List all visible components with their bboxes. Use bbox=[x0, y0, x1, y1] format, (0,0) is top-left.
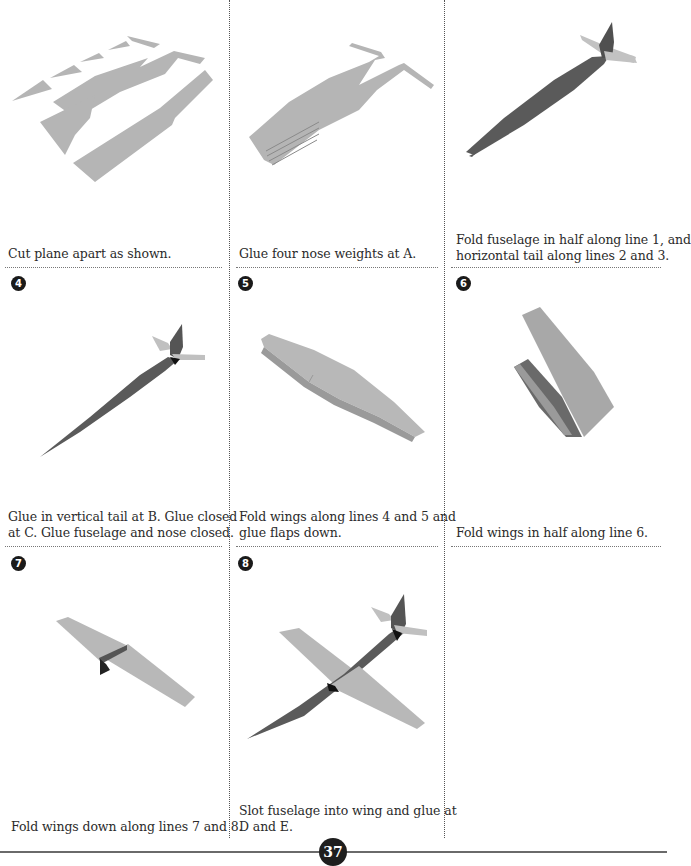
folded-fuselage-illustration bbox=[444, 0, 667, 200]
assembled-plane-illustration bbox=[229, 546, 444, 776]
wing-folded-down-illustration bbox=[0, 546, 229, 746]
step-3: Fold fuselage in half along line 1, and … bbox=[444, 0, 667, 267]
step-caption: Cut plane apart as shown. bbox=[8, 246, 171, 262]
step-caption: Fold fuselage in half along line 1, and … bbox=[456, 232, 691, 264]
page-number-badge: 37 bbox=[319, 838, 347, 866]
step-5: 5 Fold wings along lines 4 and 5 and glu… bbox=[229, 267, 444, 546]
wing-folded-half-illustration bbox=[444, 267, 667, 487]
row-divider bbox=[451, 546, 661, 547]
step-8: 8 Slot fuselage into wing and glue at D … bbox=[229, 546, 444, 838]
step-7: 7 Fold wings down along lines 7 and 8. bbox=[0, 546, 229, 838]
step-caption: Fold wings along lines 4 and 5 and glue … bbox=[239, 509, 456, 541]
step-caption: Glue four nose weights at A. bbox=[239, 246, 416, 262]
step-2: Glue four nose weights at A. bbox=[229, 0, 444, 267]
step-caption: Slot fuselage into wing and glue at D an… bbox=[239, 803, 457, 835]
step-caption: Fold wings down along lines 7 and 8. bbox=[11, 819, 242, 835]
cut-pieces-illustration bbox=[0, 0, 229, 200]
glued-fuselage-illustration bbox=[0, 267, 229, 487]
step-caption: Fold wings in half along line 6. bbox=[456, 525, 648, 541]
step-caption: Glue in vertical tail at B. Glue closed … bbox=[8, 509, 237, 541]
nose-weights-illustration bbox=[229, 0, 444, 200]
step-4: 4 Glue in vertical tail at B. Glue close… bbox=[0, 267, 229, 546]
folded-wing-flaps-illustration bbox=[229, 267, 444, 487]
step-6: 6 Fold wings in half along line 6. bbox=[444, 267, 667, 546]
step-1: Cut plane apart as shown. bbox=[0, 0, 229, 267]
